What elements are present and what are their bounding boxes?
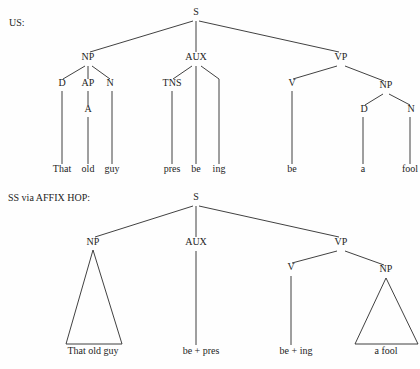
- ss-affix-hop-tree-edge-vp-v: [292, 251, 337, 263]
- us-tree-leaf-old: old: [82, 163, 95, 174]
- us-tree-node-d2: D: [360, 103, 367, 114]
- tree-canvas: US:SNPAUXVPDAPNTNSAVNPDNThatoldguypresbe…: [0, 0, 420, 369]
- us-tree-node-vp: VP: [335, 51, 348, 62]
- ss-affix-hop-tree-leaf-that-old-guy: That old guy: [67, 345, 118, 356]
- ss-affix-hop-tree-leaf-be-pres: be + pres: [183, 345, 220, 356]
- us-tree-node-ap: AP: [82, 77, 95, 88]
- us-tree-node-np: NP: [82, 51, 95, 62]
- us-tree-edge-np2-d: [365, 94, 383, 105]
- us-tree-node-aux: AUX: [185, 51, 207, 62]
- us-tree-edge-s-vp: [199, 21, 339, 52]
- us-tree-leaf-a: a: [361, 163, 366, 174]
- us-tree-node-v: V: [288, 77, 296, 88]
- ss-affix-hop-tree-edge-vp-np: [345, 251, 384, 265]
- ss-affix-hop-tree-triangle-np-that-old-guy: [66, 250, 122, 344]
- us-tree-leaf-guy: guy: [105, 163, 120, 174]
- us-tree-edge-vp-v: [293, 66, 337, 79]
- ss-affix-hop-tree-edge-s-np: [95, 206, 193, 237]
- tree-caption-us-tree: US:: [9, 17, 25, 28]
- ss-affix-hop-tree-edge-s-vp: [199, 206, 339, 237]
- ss-affix-hop-tree-leaf-be-ing: be + ing: [280, 345, 313, 356]
- us-tree-leaf-that: That: [53, 163, 72, 174]
- us-tree-leaf-ing: ing: [213, 163, 226, 174]
- ss-affix-hop-tree-node-v: V: [287, 261, 295, 272]
- ss-affix-hop-tree-triangle-np-a-fool: [355, 278, 418, 344]
- us-tree-edge-s-np: [90, 21, 193, 52]
- us-tree-leaf-pres: pres: [164, 163, 181, 174]
- us-tree-edge-vp-np: [345, 66, 384, 81]
- us-tree-leaf-fool: fool: [402, 163, 418, 174]
- ss-affix-hop-tree-node-np: NP: [87, 236, 100, 247]
- ss-affix-hop-tree-node-s: S: [193, 191, 199, 202]
- ss-affix-hop-tree-node-vp: VP: [335, 236, 348, 247]
- syntax-tree-figure: US:SNPAUXVPDAPNTNSAVNPDNThatoldguypresbe…: [0, 0, 420, 369]
- tree-us-tree: US:SNPAUXVPDAPNTNSAVNPDNThatoldguypresbe…: [9, 6, 418, 174]
- us-tree-node-a: A: [84, 103, 92, 114]
- us-tree-node-tns: TNS: [163, 77, 182, 88]
- us-tree-node-n1: N: [106, 77, 113, 88]
- us-tree-node-n2: N: [407, 103, 414, 114]
- ss-affix-hop-tree-leaf-a-fool: a fool: [374, 345, 397, 356]
- tree-caption-ss-affix-hop-tree: SS via AFFIX HOP:: [8, 192, 90, 203]
- us-tree-edge-aux-ing: [201, 66, 219, 79]
- tree-ss-affix-hop-tree: SS via AFFIX HOP:SNPAUXVPVNPThat old guy…: [8, 191, 418, 356]
- ss-affix-hop-tree-node-np2: NP: [380, 263, 393, 274]
- us-tree-node-d1: D: [58, 77, 65, 88]
- ss-affix-hop-tree-node-aux: AUX: [185, 236, 207, 247]
- us-tree-node-s: S: [193, 6, 199, 17]
- us-tree-leaf-be1: be: [191, 163, 201, 174]
- us-tree-node-np2: NP: [380, 79, 393, 90]
- us-tree-leaf-be2: be: [287, 163, 297, 174]
